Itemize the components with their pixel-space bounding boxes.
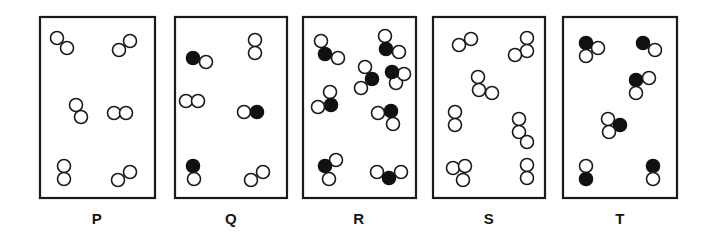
- open-circle-icon: [447, 162, 460, 175]
- open-circle-icon: [355, 82, 368, 95]
- filled-circle-icon: [630, 74, 643, 87]
- open-circle-icon: [188, 173, 201, 186]
- filled-circle-icon: [385, 105, 398, 118]
- box-label-s: S: [484, 210, 495, 227]
- open-circle-icon: [509, 49, 522, 62]
- filled-circle-icon: [580, 37, 593, 50]
- open-circle-icon: [521, 136, 534, 149]
- open-circle-icon: [398, 68, 411, 81]
- open-circle-icon: [473, 84, 486, 97]
- filled-circle-icon: [580, 173, 593, 186]
- open-circle-icon: [643, 72, 656, 85]
- open-circle-icon: [379, 30, 392, 43]
- open-circle-icon: [486, 87, 499, 100]
- open-circle-icon: [75, 111, 88, 124]
- box-label-q: Q: [225, 210, 237, 227]
- box-t[interactable]: T: [563, 17, 677, 227]
- box-p[interactable]: P: [40, 17, 155, 227]
- open-circle-icon: [630, 87, 643, 100]
- open-circle-icon: [449, 106, 462, 119]
- open-circle-icon: [580, 50, 593, 63]
- open-circle-icon: [70, 99, 83, 112]
- filled-circle-icon: [319, 48, 332, 61]
- box-r[interactable]: R: [303, 17, 416, 227]
- open-circle-icon: [180, 95, 193, 108]
- open-circle-icon: [592, 42, 605, 55]
- open-circle-icon: [113, 44, 126, 57]
- open-circle-icon: [238, 106, 251, 119]
- filled-circle-icon: [380, 43, 393, 56]
- filled-circle-icon: [647, 160, 660, 173]
- open-circle-icon: [312, 101, 325, 114]
- open-circle-icon: [465, 33, 478, 46]
- box-q[interactable]: Q: [175, 17, 287, 227]
- open-circle-icon: [521, 32, 534, 45]
- open-circle-icon: [387, 118, 400, 131]
- filled-circle-icon: [251, 106, 264, 119]
- open-circle-icon: [449, 119, 462, 132]
- filled-circle-icon: [319, 160, 332, 173]
- open-circle-icon: [521, 172, 534, 185]
- open-circle-icon: [120, 107, 133, 120]
- diagram-canvas: PQRST: [0, 0, 705, 243]
- open-circle-icon: [257, 166, 270, 179]
- filled-circle-icon: [383, 172, 396, 185]
- open-circle-icon: [371, 166, 384, 179]
- open-circle-icon: [459, 160, 472, 173]
- filled-circle-icon: [366, 73, 379, 86]
- open-circle-icon: [647, 173, 660, 186]
- open-circle-icon: [315, 35, 328, 48]
- open-circle-icon: [395, 166, 408, 179]
- open-circle-icon: [58, 160, 71, 173]
- open-circle-icon: [112, 174, 125, 187]
- open-circle-icon: [513, 113, 526, 126]
- open-circle-icon: [372, 107, 385, 120]
- open-circle-icon: [580, 160, 593, 173]
- open-circle-icon: [521, 159, 534, 172]
- filled-circle-icon: [187, 52, 200, 65]
- open-circle-icon: [124, 166, 137, 179]
- open-circle-icon: [108, 107, 121, 120]
- open-circle-icon: [359, 61, 372, 74]
- box-s[interactable]: S: [433, 17, 545, 227]
- open-circle-icon: [649, 44, 662, 57]
- open-circle-icon: [457, 174, 470, 187]
- open-circle-icon: [249, 47, 262, 60]
- filled-circle-icon: [187, 160, 200, 173]
- open-circle-icon: [200, 56, 213, 69]
- box-label-p: P: [92, 210, 103, 227]
- open-circle-icon: [521, 45, 534, 58]
- open-circle-icon: [472, 71, 485, 84]
- open-circle-icon: [124, 35, 137, 48]
- open-circle-icon: [603, 126, 616, 139]
- open-circle-icon: [324, 86, 337, 99]
- open-circle-icon: [332, 52, 345, 65]
- box-label-r: R: [353, 210, 364, 227]
- open-circle-icon: [393, 46, 406, 59]
- open-circle-icon: [602, 113, 615, 126]
- filled-circle-icon: [386, 66, 399, 79]
- box-label-t: T: [615, 210, 625, 227]
- open-circle-icon: [51, 32, 64, 45]
- open-circle-icon: [245, 174, 258, 187]
- open-circle-icon: [58, 173, 71, 186]
- filled-circle-icon: [325, 99, 338, 112]
- open-circle-icon: [323, 173, 336, 186]
- open-circle-icon: [192, 95, 205, 108]
- open-circle-icon: [249, 34, 262, 47]
- open-circle-icon: [61, 42, 74, 55]
- filled-circle-icon: [637, 37, 650, 50]
- open-circle-icon: [453, 39, 466, 52]
